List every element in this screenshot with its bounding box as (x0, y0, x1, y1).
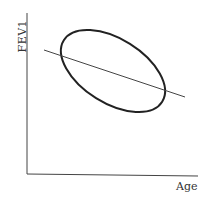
x-axis (27, 174, 198, 176)
regression-line (44, 50, 185, 97)
x-axis-label: Age (176, 180, 198, 193)
data-ellipse (47, 13, 179, 129)
diagram-canvas (0, 0, 217, 199)
y-axis-label: FEV1 (16, 21, 29, 53)
